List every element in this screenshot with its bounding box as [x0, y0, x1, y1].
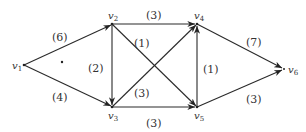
- edge-v2-v5-weight: (1): [134, 37, 150, 50]
- node-v1-label: v1: [12, 60, 22, 73]
- graph-diagram: v1 v2 v3 v4 v5 v6 (6) (4) (2) (3) (1) (3…: [0, 0, 306, 132]
- node-v6-label: v6: [288, 64, 299, 77]
- node-v5-dot: [196, 106, 199, 109]
- edge-v2-v4-weight: (3): [146, 9, 162, 22]
- edge-v3-v4: [112, 25, 196, 107]
- edge-v1-v2-weight: (6): [52, 31, 68, 44]
- node-v3-dot: [111, 106, 114, 109]
- node-v4-dot: [196, 23, 199, 26]
- edge-v4-v6-weight: (7): [246, 36, 262, 49]
- edge-v5-v4-weight: (1): [203, 63, 219, 76]
- node-v1-dot: [23, 64, 26, 67]
- edge-v5-v6-weight: (3): [246, 93, 262, 106]
- node-v6-dot: [283, 68, 285, 70]
- node-v2-label: v2: [108, 10, 118, 23]
- stray-dot: [61, 61, 63, 63]
- node-v5-label: v5: [194, 110, 204, 123]
- node-v2-dot: [111, 23, 114, 26]
- edge-v2-v3-weight: (2): [88, 62, 104, 75]
- edge-v1-v3-weight: (4): [52, 91, 68, 104]
- edge-v3-v4-weight: (3): [134, 87, 150, 100]
- edge-v2-v5: [112, 24, 196, 106]
- node-v3-label: v3: [108, 110, 118, 123]
- edge-v3-v5-weight: (3): [146, 117, 162, 130]
- edge-v4-v6: [197, 24, 282, 68]
- node-v4-label: v4: [194, 10, 205, 23]
